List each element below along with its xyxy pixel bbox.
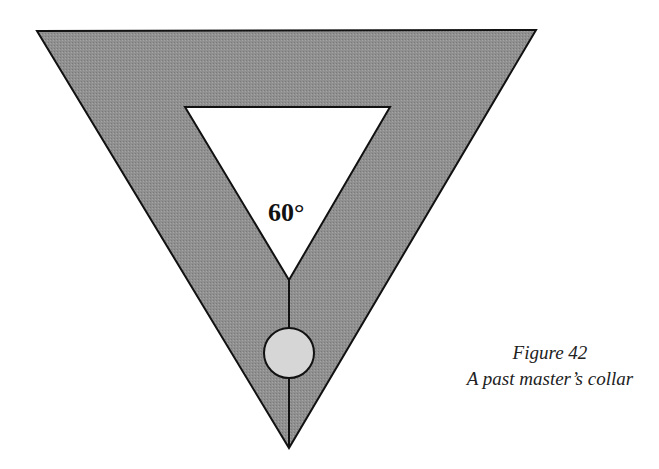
jewel-circle (264, 328, 314, 378)
figure-canvas: 60° Figure 42 A past master’s collar (0, 0, 659, 469)
figure-caption: Figure 42 A past master’s collar (440, 340, 659, 392)
caption-subtitle: A past master’s collar (440, 366, 659, 392)
collar-diagram (0, 0, 659, 469)
angle-label: 60° (268, 198, 304, 228)
caption-title: Figure 42 (440, 340, 659, 366)
